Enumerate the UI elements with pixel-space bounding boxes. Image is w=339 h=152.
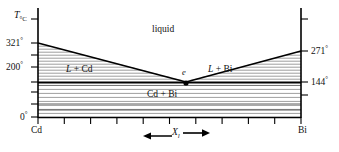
degree-symbol: °: [20, 60, 23, 68]
region-label-liquid: liquid: [152, 25, 174, 35]
phase-diagram-canvas: [0, 0, 339, 152]
y-tick-value-321: 321: [6, 38, 20, 48]
eutectic-point-label: e: [182, 68, 186, 77]
y-tick-value-144: 144: [311, 77, 325, 87]
y-tick-label-144: 144°: [311, 76, 328, 88]
region-label-l-plus-bi: L + Bi: [208, 65, 232, 75]
degree-symbol: °: [25, 110, 28, 118]
phase-diagram-figure: T°C 321° 200° 0° 271° 144° liquid L + Cd…: [0, 0, 339, 152]
region-label-l-plus-bi-text: + Bi: [213, 64, 232, 74]
y-tick-label-321: 321°: [6, 37, 23, 49]
y-axis-title: T°C: [14, 10, 27, 23]
y-axis-title-unit: °C: [20, 15, 27, 23]
x-axis-ticks: [38, 118, 301, 125]
composition-arrow-right: [183, 129, 210, 136]
y-tick-value-271: 271: [311, 46, 325, 56]
region-label-cd-plus-bi: Cd + Bi: [147, 90, 177, 100]
composition-variable-label: Xl: [172, 128, 180, 140]
region-label-l-plus-cd: L + Cd: [66, 65, 93, 75]
y-tick-label-0: 0°: [20, 111, 28, 123]
region-label-l-plus-cd-text: + Cd: [71, 64, 92, 74]
y-tick-label-271: 271°: [311, 45, 328, 57]
y-tick-label-200: 200°: [6, 61, 23, 73]
x-axis-endpoint-right: Bi: [298, 126, 307, 136]
composition-arrow-left: [143, 133, 172, 140]
degree-symbol: °: [325, 44, 328, 52]
degree-symbol: °: [20, 36, 23, 44]
eutectic-point-marker: [183, 80, 188, 85]
degree-symbol: °: [325, 75, 328, 83]
x-axis-endpoint-left: Cd: [31, 126, 42, 136]
y-tick-value-200: 200: [6, 62, 20, 72]
composition-variable-sub: l: [178, 132, 180, 140]
